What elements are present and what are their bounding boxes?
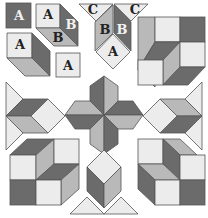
corner-block-top-right bbox=[138, 17, 205, 87]
label-b: B bbox=[66, 17, 77, 32]
label-a: A bbox=[107, 44, 119, 59]
bottom-center-unit bbox=[70, 150, 138, 214]
label-b: B bbox=[117, 22, 128, 37]
label-a: A bbox=[62, 58, 74, 73]
label-b: B bbox=[100, 22, 111, 37]
label-c: C bbox=[88, 2, 98, 17]
label-a: A bbox=[42, 7, 54, 22]
corner-block-bottom-left bbox=[10, 139, 79, 205]
corner-block-bottom-right bbox=[138, 139, 205, 205]
label-a: A bbox=[13, 8, 25, 23]
label-a: A bbox=[14, 37, 26, 52]
label-b: B bbox=[53, 30, 64, 45]
label-c: C bbox=[130, 2, 140, 17]
exploded-pieces: A A B B A A C C B B A bbox=[6, 2, 148, 78]
quilt-diagram: A A B B A A C C B B A bbox=[0, 0, 208, 218]
